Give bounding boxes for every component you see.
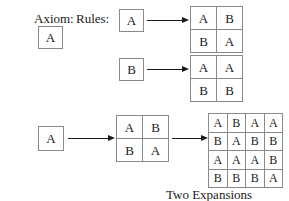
expansion-step2-cell: B [246,170,264,188]
figure-caption: Two Expansions [166,188,252,201]
rule-1-lhs-cell: A [119,9,144,32]
rule-1-rhs-cell: B [191,30,216,52]
rule-1-rhs-cell: B [217,7,242,29]
expansion-step1-cell: B [117,139,142,161]
expansion-step2-cell: B [265,133,283,151]
expansion-step1-cell: A [117,116,142,138]
expansion-step2-cell: A [265,170,283,188]
expansion-step1-cell: B [143,116,168,138]
rule-2-rhs-cell: A [217,56,242,78]
axiom-cell: A [38,26,63,49]
figure-canvas: Axiom: A Rules: A A B B A B A A B B A A … [0,0,289,201]
rules-label: Rules: [76,12,109,25]
rule-1-rhs-cell: A [191,7,216,29]
rule-1-rhs-cell: A [217,30,242,52]
expansion-step1-grid: A B B A [116,115,169,162]
expansion-step2-cell: B [228,114,246,132]
expansion-step1-cell: A [143,139,168,161]
rule-1-arrow [147,16,189,25]
expansion-step2-grid: A B A A B A B B A A A B B B B A [208,113,283,188]
expansion-step2-cell: A [228,133,246,151]
rule-2-lhs-cell: B [119,58,144,81]
expansion-arrow-1 [68,134,115,143]
expansion-step2-cell: B [265,151,283,169]
expansion-step2-cell: B [246,133,264,151]
expansion-step2-cell: A [265,114,283,132]
expansion-arrow-2 [172,134,208,143]
rule-2-rhs-cell: B [217,79,242,101]
axiom-label: Axiom: [34,12,74,25]
expansion-start-cell: A [38,126,64,151]
rule-2-rhs-cell: A [191,56,216,78]
rule-2-rhs-grid: A A B B [190,55,243,102]
expansion-step2-cell: A [246,114,264,132]
expansion-step2-cell: B [228,170,246,188]
expansion-step2-cell: B [209,170,227,188]
expansion-step2-cell: B [209,133,227,151]
rule-1-rhs-grid: A B B A [190,6,243,53]
expansion-step2-cell: A [228,151,246,169]
expansion-step2-cell: A [209,114,227,132]
rule-2-arrow [147,65,189,74]
expansion-step2-cell: A [209,151,227,169]
expansion-step2-cell: A [246,151,264,169]
rule-2-rhs-cell: B [191,79,216,101]
